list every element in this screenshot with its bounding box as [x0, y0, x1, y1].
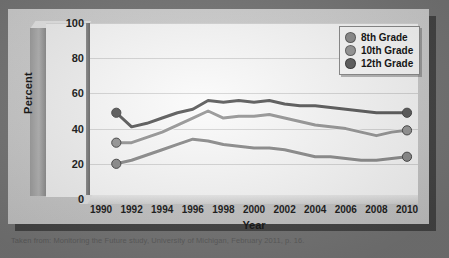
y-tick-label: 20 [50, 158, 84, 169]
chart-legend: 8th Grade10th Grade12th Grade [339, 26, 420, 75]
series-line [116, 139, 407, 164]
x-tick-label: 1994 [151, 205, 173, 215]
x-tick-label: 1992 [120, 205, 142, 215]
x-tick-label: 2010 [396, 205, 418, 215]
y-tick-label: 80 [50, 53, 84, 64]
x-tick-label: 1990 [90, 205, 112, 215]
plot-floor [86, 195, 418, 204]
series-endpoint-marker [402, 108, 411, 117]
chart-plate: 020406080100 199019921994199619982000200… [8, 9, 429, 224]
legend-item-label: 12th Grade [361, 59, 413, 69]
series-endpoint-marker [112, 138, 121, 147]
x-tick-label: 2008 [365, 205, 387, 215]
x-tick-label: 2002 [273, 205, 295, 215]
series-endpoint-marker [402, 152, 411, 161]
legend-swatch-circle-icon [345, 58, 356, 69]
legend-item: 12th Grade [345, 57, 413, 70]
x-tick-label: 2000 [243, 205, 265, 215]
x-tick-label: 1996 [182, 205, 204, 215]
source-caption: Taken from: Monitoring the Future study,… [11, 236, 304, 245]
legend-item-label: 8th Grade [361, 33, 408, 43]
y-axis-title: Percent [22, 63, 34, 123]
y-tick-label: 100 [50, 18, 84, 29]
legend-swatch-circle-icon [345, 32, 356, 43]
chart-panel: 020406080100 199019921994199619982000200… [8, 9, 429, 224]
x-tick-label: 2004 [304, 205, 326, 215]
figure-slide: 020406080100 199019921994199619982000200… [0, 0, 449, 258]
legend-item-label: 10th Grade [361, 46, 413, 56]
x-tick-label: 1998 [212, 205, 234, 215]
series-endpoint-marker [112, 159, 121, 168]
series-endpoint-marker [402, 126, 411, 135]
x-axis-tick-labels: 1990199219941996199820002002200420062008… [90, 205, 418, 219]
legend-swatch-circle-icon [345, 45, 356, 56]
x-axis-title: Year [90, 219, 418, 231]
y-tick-label: 0 [50, 194, 84, 205]
x-tick-label: 2006 [335, 205, 357, 215]
y-tick-label: 60 [50, 88, 84, 99]
legend-item: 8th Grade [345, 31, 413, 44]
y-axis-tick-labels: 020406080100 [48, 23, 84, 199]
series-line [116, 111, 407, 143]
legend-item: 10th Grade [345, 44, 413, 57]
y-tick-label: 40 [50, 123, 84, 134]
series-endpoint-marker [112, 108, 121, 117]
y-axis-spine [86, 23, 90, 199]
